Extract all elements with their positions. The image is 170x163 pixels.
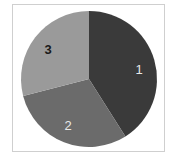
slice-label-2: 2 <box>64 118 71 133</box>
pie-chart: 1 2 3 <box>0 0 170 163</box>
slice-label-3: 3 <box>44 42 51 57</box>
slice-label-1: 1 <box>135 62 142 77</box>
